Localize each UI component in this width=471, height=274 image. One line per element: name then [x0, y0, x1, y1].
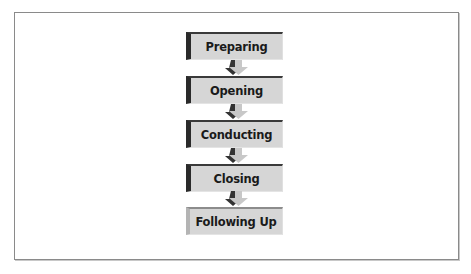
step-label: Closing [213, 172, 259, 186]
step-preparing: Preparing [186, 32, 283, 60]
arrow-down-icon [224, 60, 250, 76]
step-closing: Closing [186, 164, 283, 192]
step-label: Preparing [205, 40, 267, 54]
step-label: Conducting [201, 128, 273, 142]
arrow-down-icon [224, 191, 250, 207]
arrow-down-icon [224, 148, 250, 164]
step-opening: Opening [186, 76, 283, 104]
step-label: Following Up [195, 215, 276, 229]
step-following-up: Following Up [186, 207, 283, 235]
step-label: Opening [210, 84, 263, 98]
step-conducting: Conducting [186, 120, 283, 148]
arrow-down-icon [224, 104, 250, 120]
